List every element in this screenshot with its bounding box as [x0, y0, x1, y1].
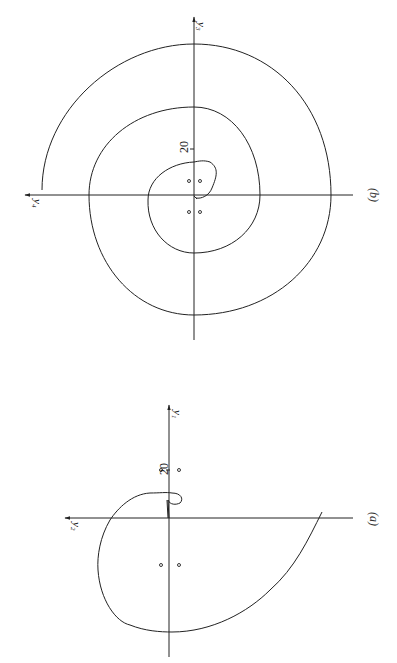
panel-a-tick-label: 20 — [157, 463, 171, 475]
panel-a-trajectory — [98, 493, 322, 632]
panel-b-equilibrium-point — [188, 211, 191, 214]
panel-b-horizontal-axis-label: y4 — [30, 198, 44, 208]
panel-a-equilibrium-point — [178, 564, 181, 567]
panel-a-caption: (a) — [367, 512, 381, 526]
panel-b-caption: (b) — [367, 188, 381, 202]
panel-b-equilibrium-point — [199, 211, 202, 214]
panel-a-vertical-axis-label: y1 — [170, 409, 184, 418]
panel-b-tick-label: 20 — [177, 141, 191, 153]
figure-canvas: 20 y3 y4 (b) 20 y1 y2 (a) — [0, 0, 397, 663]
panel-b: 20 y3 y4 (b) — [25, 17, 381, 340]
panel-b-spiral-trajectory — [42, 44, 331, 315]
panel-b-equilibrium-point — [199, 180, 202, 183]
panel-a: 20 y1 y2 (a) — [65, 405, 381, 657]
panel-a-equilibrium-point — [178, 469, 181, 472]
panel-b-equilibrium-point — [188, 180, 191, 183]
panel-a-equilibrium-point — [160, 564, 163, 567]
panel-b-vertical-axis-label: y3 — [194, 21, 208, 31]
panel-a-horizontal-axis-label: y2 — [69, 521, 83, 531]
